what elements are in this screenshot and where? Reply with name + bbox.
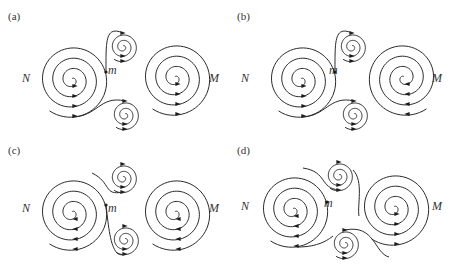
small-spiral-top — [328, 164, 352, 191]
saddle-m-label: m — [108, 63, 117, 77]
small-spiral-bottom — [343, 103, 367, 130]
separatrix — [92, 173, 123, 193]
panel-b-label: (b) — [237, 10, 250, 23]
flow-arrow-icon — [72, 104, 77, 108]
flow-arrow-icon — [336, 183, 341, 187]
panel-c-label: (c) — [8, 144, 21, 157]
saddle-m-label: m — [108, 201, 117, 215]
node-N-label: N — [21, 71, 31, 85]
flow-arrow-icon — [175, 112, 180, 116]
flow-arrow-icon — [404, 102, 409, 106]
phase-portrait-figure: (a) N M m (b) N M m (c) N M m (d) N M m — [0, 0, 459, 269]
separatrix — [301, 100, 354, 117]
flow-arrow-icon — [301, 94, 306, 98]
flow-arrow-icon — [342, 256, 347, 260]
flow-arrow-icon — [122, 224, 127, 228]
node-N-label: N — [240, 199, 250, 213]
flow-arrow-icon — [175, 227, 180, 231]
flow-arrow-icon — [404, 82, 409, 86]
node-N-label: N — [21, 201, 31, 215]
panel-d-label: (d) — [237, 144, 250, 157]
flow-arrow-icon — [122, 127, 127, 131]
small-spiral-bottom — [114, 103, 138, 130]
separatrix — [72, 100, 125, 117]
flow-arrow-icon — [351, 122, 356, 126]
flow-arrow-icon — [120, 185, 125, 189]
panel-a-label: (a) — [8, 10, 21, 23]
flow-arrow-icon — [293, 224, 298, 228]
flow-arrow-icon — [175, 102, 180, 106]
flow-arrow-icon — [72, 94, 77, 98]
flow-arrow-icon — [342, 251, 347, 255]
flow-arrow-icon — [293, 234, 298, 238]
small-spiral-top — [112, 166, 136, 193]
flow-arrow-icon — [301, 104, 306, 108]
panel-c: (c) N M m — [8, 144, 220, 256]
flow-arrow-icon — [175, 237, 180, 241]
flow-arrow-icon — [351, 127, 356, 131]
node-M-label: M — [431, 199, 443, 213]
flow-arrow-icon — [122, 247, 127, 251]
spiral-M — [369, 46, 433, 115]
panel-d: (d) N M m — [237, 144, 443, 260]
flow-arrow-icon — [349, 54, 354, 58]
small-spiral-bottom — [114, 228, 138, 255]
separatrix — [303, 168, 339, 190]
flow-arrow-icon — [120, 59, 125, 63]
panel-a: (a) N M m — [8, 10, 220, 131]
node-N-label: N — [240, 71, 250, 85]
flow-arrow-icon — [394, 232, 399, 236]
flow-arrow-icon — [120, 54, 125, 58]
small-spiral-top — [112, 35, 136, 62]
flow-arrow-icon — [122, 122, 127, 126]
saddle-point-m — [325, 200, 328, 203]
flow-arrow-icon — [394, 222, 399, 226]
flow-arrow-icon — [336, 160, 341, 164]
flow-arrow-icon — [175, 92, 180, 96]
flow-arrow-icon — [72, 227, 77, 231]
small-spiral-bottom — [334, 232, 358, 259]
separatrix — [353, 170, 359, 216]
flow-arrow-icon — [120, 162, 125, 166]
flow-arrow-icon — [404, 92, 409, 96]
small-spiral-top — [341, 35, 365, 62]
panel-b: (b) N M m — [237, 10, 443, 131]
flow-arrow-icon — [394, 242, 399, 246]
flow-arrow-icon — [349, 59, 354, 63]
flow-arrow-icon — [72, 237, 77, 241]
